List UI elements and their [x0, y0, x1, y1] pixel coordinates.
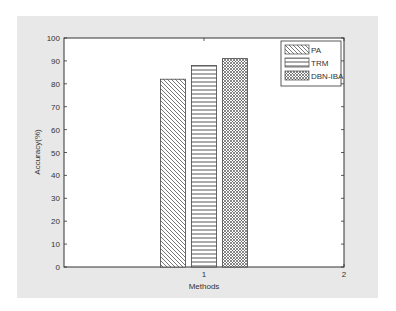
- y-tick-label: 90: [51, 57, 60, 66]
- bar-trm: [192, 65, 217, 267]
- legend-swatch: [285, 45, 309, 54]
- y-tick-label: 80: [51, 80, 60, 89]
- x-axis-label: Methods: [189, 282, 220, 291]
- x-tick-label: 2: [342, 270, 347, 279]
- legend-label: PA: [311, 46, 322, 55]
- y-tick-label: 0: [56, 263, 61, 272]
- y-tick-label: 70: [51, 103, 60, 112]
- legend: PATRMDBN-IBA: [281, 41, 344, 86]
- bar-pa: [161, 79, 186, 267]
- y-tick-label: 10: [51, 240, 60, 249]
- y-tick-label: 100: [47, 34, 61, 43]
- y-tick-label: 40: [51, 171, 60, 180]
- y-tick-label: 30: [51, 194, 60, 203]
- y-tick-label: 20: [51, 217, 60, 226]
- bar-chart: 0102030405060708090100 12 Methods Accura…: [0, 0, 396, 311]
- legend-swatch: [285, 58, 309, 67]
- legend-label: TRM: [311, 59, 329, 68]
- legend-label: DBN-IBA: [311, 72, 344, 81]
- bar-dbn-iba: [223, 59, 248, 267]
- bars: [161, 59, 248, 267]
- y-tick-label: 50: [51, 149, 60, 158]
- legend-swatch: [285, 71, 309, 80]
- y-tick-label: 60: [51, 126, 60, 135]
- y-axis-label: Accuracy(%): [33, 129, 42, 175]
- x-tick-label: 1: [202, 270, 207, 279]
